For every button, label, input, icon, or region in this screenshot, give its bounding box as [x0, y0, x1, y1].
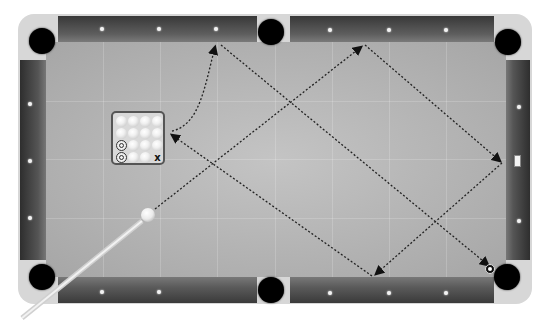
rack-ball: [140, 152, 151, 163]
rack-ball: [128, 116, 139, 127]
rack-ball: [140, 116, 151, 127]
rack-ball: [140, 140, 151, 151]
cue-ball[interactable]: [141, 208, 155, 222]
ball-rack-panel: x: [111, 111, 165, 165]
shot-path: [0, 0, 550, 331]
rack-ball: [128, 152, 139, 163]
rack-ball: [128, 128, 139, 139]
rack-ball-pocketed: [116, 152, 127, 163]
rack-ball-pocketed: [116, 140, 127, 151]
target-ball[interactable]: [485, 264, 495, 274]
rack-ball: [140, 128, 151, 139]
rack-ball: [116, 128, 127, 139]
rack-ball: [116, 116, 127, 127]
rack-ball: [152, 128, 163, 139]
rack-ball: [128, 140, 139, 151]
rack-x-mark: x: [152, 152, 163, 163]
rack-ball: [152, 116, 163, 127]
rack-ball: [152, 140, 163, 151]
